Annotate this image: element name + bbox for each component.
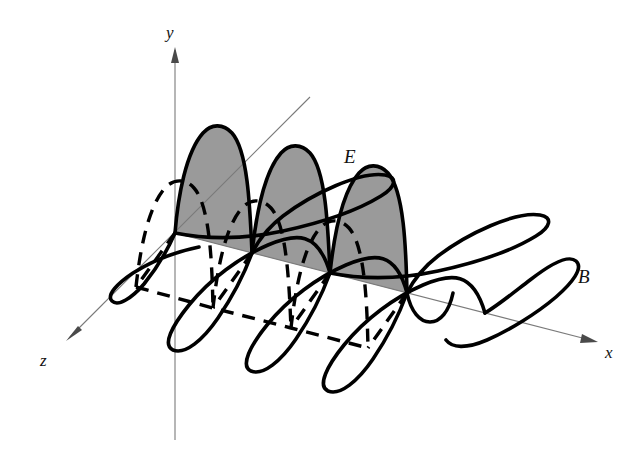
em-wave-figure: y x z E B <box>0 0 638 459</box>
b-wave-loop-rear-3 <box>446 259 579 346</box>
b-wave-loop-front-start <box>110 233 199 303</box>
b-field-label: B <box>578 266 590 287</box>
axes-group <box>66 47 598 440</box>
z-axis-label: z <box>39 351 47 370</box>
em-wave-diagram: y x z E B <box>0 0 638 459</box>
e-wave-rear-axis <box>136 287 368 348</box>
e-depth-edge-node-3 <box>368 293 407 348</box>
x-axis-arrowhead <box>580 334 598 343</box>
y-axis-label: y <box>164 23 174 42</box>
x-axis-label: x <box>604 343 613 362</box>
z-axis-arrowhead <box>66 326 82 341</box>
e-field-label: E <box>343 146 356 167</box>
y-axis-arrowhead <box>171 47 179 63</box>
e-wave-solid-tail <box>407 293 453 322</box>
